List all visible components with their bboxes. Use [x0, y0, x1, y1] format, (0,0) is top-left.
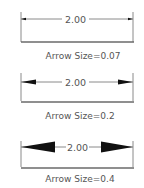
arrow-size-label: Arrow Size=0.4 [45, 174, 115, 184]
dimension-diagram: 2.00 Arrow Size=0.07 2.00 Arrow Size=0.2… [0, 0, 144, 188]
dimension-value: 2.00 [65, 14, 86, 25]
background [0, 0, 144, 188]
dimension-value: 2.00 [65, 77, 86, 88]
arrow-size-label: Arrow Size=0.2 [45, 111, 114, 121]
arrow-size-label: Arrow Size=0.07 [46, 51, 121, 61]
dimension-value: 2.00 [67, 142, 88, 153]
